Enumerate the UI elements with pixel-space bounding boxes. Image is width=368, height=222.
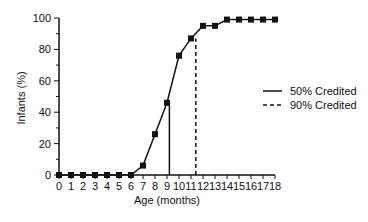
x-tick-label: 2 (80, 180, 86, 192)
data-point-marker (248, 17, 254, 23)
x-tick-label: 5 (116, 180, 122, 192)
x-tick-label: 11 (185, 180, 196, 192)
x-tick-label: 4 (104, 180, 110, 192)
data-point-marker (56, 172, 62, 178)
chart: 020406080100 012345678910111213141516171… (0, 0, 368, 222)
series-line (59, 20, 275, 175)
x-tick-label: 6 (128, 180, 134, 192)
data-point-marker (224, 17, 230, 23)
x-tick-label: 14 (221, 180, 233, 192)
data-point-marker (212, 23, 218, 29)
x-tick-label: 0 (56, 180, 62, 192)
data-point-marker (92, 172, 98, 178)
y-axis: 020406080100 (33, 12, 59, 181)
legend-label-50: 50% Credited (290, 85, 357, 97)
data-point-marker (200, 23, 206, 29)
y-tick-label: 60 (39, 75, 51, 87)
reference-lines (169, 38, 195, 175)
data-point-marker (164, 100, 170, 106)
data-point-marker (152, 131, 158, 137)
data-point-marker (260, 17, 266, 23)
x-tick-label: 3 (92, 180, 98, 192)
data-point-marker (128, 172, 134, 178)
x-tick-label: 8 (152, 180, 158, 192)
data-point-marker (236, 17, 242, 23)
x-tick-label: 13 (209, 180, 221, 192)
x-tick-label: 17 (257, 180, 269, 192)
data-series (56, 17, 278, 178)
data-point-marker (188, 35, 194, 41)
x-tick-label: 15 (233, 180, 245, 192)
x-tick-label: 18 (269, 180, 281, 192)
y-tick-label: 20 (39, 138, 51, 150)
y-axis-title: Infants (%) (15, 71, 27, 124)
x-tick-label: 1 (68, 180, 74, 192)
x-axis-title: Age (months) (134, 194, 200, 206)
x-tick-label: 10 (173, 180, 185, 192)
x-tick-label: 16 (245, 180, 257, 192)
data-point-marker (68, 172, 74, 178)
y-tick-label: 0 (45, 169, 51, 181)
data-point-marker (80, 172, 86, 178)
x-tick-label: 9 (164, 180, 170, 192)
data-point-marker (272, 17, 278, 23)
y-tick-label: 100 (33, 12, 51, 24)
x-tick-label: 12 (197, 180, 209, 192)
data-point-marker (104, 172, 110, 178)
y-tick-label: 80 (39, 43, 51, 55)
x-tick-label: 7 (140, 180, 146, 192)
legend-label-90: 90% Credited (290, 99, 357, 111)
y-tick-label: 40 (39, 106, 51, 118)
data-point-marker (116, 172, 122, 178)
data-point-marker (140, 163, 146, 169)
data-point-marker (176, 53, 182, 59)
x-axis: 0123456789101112131415161718 (56, 175, 281, 192)
legend: 50% Credited 90% Credited (263, 85, 357, 111)
